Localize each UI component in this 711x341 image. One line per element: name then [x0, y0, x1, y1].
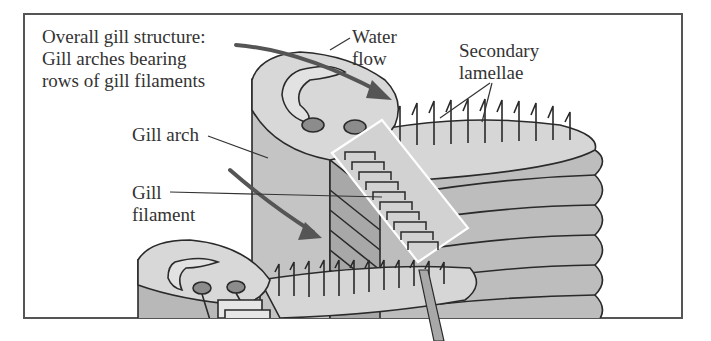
title-line-2: Gill arches bearing — [42, 48, 187, 70]
label-gill: Gill — [132, 182, 162, 204]
label-water: Water — [352, 26, 397, 48]
title-line-3: rows of gill filaments — [42, 70, 205, 92]
label-gill-arch: Gill arch — [132, 124, 199, 146]
gill-structure-diagram: Overall gill structure: Gill arches bear… — [0, 0, 711, 341]
label-filament: filament — [132, 204, 195, 226]
title-line-1: Overall gill structure: — [42, 26, 206, 48]
label-secondary: Secondary — [459, 40, 539, 62]
label-flow: flow — [352, 48, 387, 70]
label-lamellae: lamellae — [459, 62, 523, 84]
